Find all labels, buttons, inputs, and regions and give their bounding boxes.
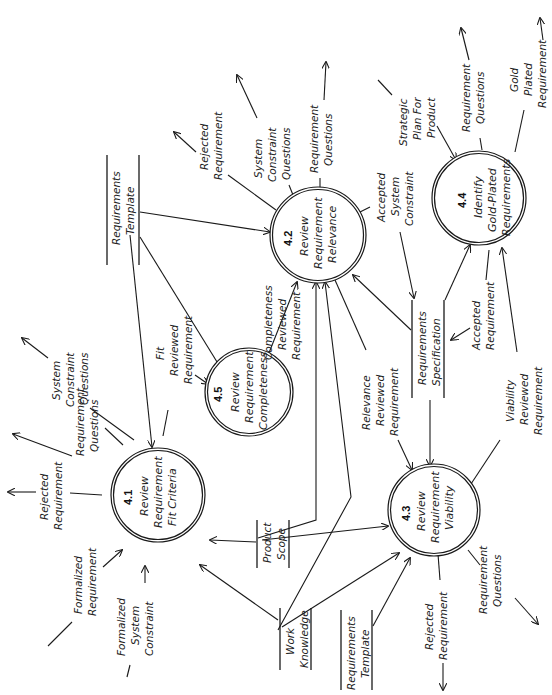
- svg-text:Scope: Scope: [275, 528, 287, 560]
- svg-text:Relevance: Relevance: [360, 375, 372, 430]
- svg-text:Fit: Fit: [154, 346, 166, 360]
- svg-text:Requirement: Requirement: [52, 461, 64, 530]
- svg-text:Viability: Viability: [504, 379, 516, 422]
- label-44-strategic-plan-for-product: Strategic Plan For Product: [397, 97, 437, 146]
- label-41-fit-reviewed-requirement: Fit Reviewed Requirement: [154, 315, 194, 384]
- label-43-requirement-questions: Requirement Questions: [477, 545, 503, 614]
- process-4-4[interactable]: 4.4 Identify Gold-Plated Requirements: [432, 151, 526, 245]
- svg-text:System: System: [50, 361, 62, 400]
- flow-spec-to-44: [445, 245, 470, 300]
- label-42-accepted-system-constraint: Accepted System Constraint: [375, 171, 415, 226]
- svg-text:Requirement: Requirement: [182, 315, 194, 384]
- flow-43-rejected-stub: [438, 554, 440, 580]
- flow-knowledge-to-42: [278, 282, 351, 630]
- svg-text:Requirement: Requirement: [477, 545, 489, 614]
- flow-42-req-questions-arrow: [324, 62, 326, 100]
- svg-text:Constraint: Constraint: [403, 171, 415, 226]
- flow-template-to-45: [140, 237, 222, 370]
- label-45-completeness-reviewed-requirement: Completeness Reviewed Requirement: [262, 285, 302, 360]
- svg-text:Template: Template: [124, 187, 136, 235]
- data-store-product-scope: Product Scope: [257, 520, 289, 568]
- svg-text:Identify: Identify: [472, 176, 485, 218]
- svg-text:Requirement: Requirement: [212, 111, 224, 180]
- svg-text:Plated: Plated: [522, 63, 534, 96]
- svg-text:Requirements: Requirements: [500, 159, 513, 236]
- svg-text:Requirement: Requirement: [460, 63, 472, 132]
- label-41-system-constraint-questions: System Constraint Questions: [50, 352, 90, 407]
- flow-template-to-42: [140, 212, 270, 232]
- process-4-2[interactable]: 4.2 Review Requirement Relevance: [270, 187, 366, 283]
- svg-text:Accepted: Accepted: [375, 173, 387, 223]
- flow-labels: Rejected Requirement Formalized Requirem…: [38, 39, 548, 660]
- svg-text:Review: Review: [138, 476, 151, 516]
- flow-41-formalized-req-tail: [48, 622, 72, 646]
- svg-text:Strategic: Strategic: [397, 98, 409, 146]
- flow-template-to-43: [373, 558, 410, 626]
- svg-text:Requirement: Requirement: [484, 281, 496, 350]
- svg-text:4.2: 4.2: [282, 231, 294, 246]
- svg-text:Requirement: Requirement: [388, 367, 400, 436]
- svg-text:Questions: Questions: [78, 352, 90, 405]
- svg-text:Completeness: Completeness: [262, 285, 274, 360]
- svg-text:Constraint: Constraint: [64, 352, 76, 407]
- flow-strategic-to-44: [437, 126, 456, 160]
- svg-text:Reviewed: Reviewed: [374, 375, 386, 426]
- flow-44-gold-stub: [515, 110, 524, 152]
- svg-text:Completeness: Completeness: [257, 352, 270, 430]
- flow-spec-to-42: [353, 275, 411, 330]
- flow-relevance-stub: [335, 280, 366, 350]
- svg-text:Questions: Questions: [491, 554, 503, 607]
- svg-text:Work: Work: [284, 627, 296, 655]
- svg-text:Requirement: Requirement: [532, 366, 544, 435]
- process-4-1[interactable]: 4.1 Review Requirement Fit Criteria: [111, 448, 205, 542]
- svg-text:Constraint: Constraint: [266, 127, 278, 182]
- flow-strategic-tail: [378, 80, 392, 95]
- svg-text:Requirement: Requirement: [290, 291, 302, 360]
- svg-text:Requirement: Requirement: [308, 104, 320, 173]
- svg-text:4.5: 4.5: [212, 387, 224, 402]
- svg-text:4.4: 4.4: [456, 192, 468, 208]
- svg-text:Questions: Questions: [280, 127, 292, 180]
- flow-accepted-to-spec: [400, 232, 414, 298]
- svg-text:Requirements: Requirements: [110, 171, 122, 245]
- svg-text:Formalized: Formalized: [115, 598, 127, 656]
- flow-44-accepted-stub: [486, 250, 489, 280]
- svg-text:Formalized: Formalized: [72, 556, 84, 614]
- svg-text:Product: Product: [425, 97, 437, 138]
- svg-text:Questions: Questions: [474, 71, 486, 124]
- flow-42-sys-questions-arrow: [237, 75, 257, 118]
- label-42-requirement-questions: Requirement Questions: [308, 104, 334, 173]
- process-4-5[interactable]: 4.5 Review Requirement Completeness: [205, 348, 293, 436]
- svg-text:Questions: Questions: [322, 113, 334, 166]
- svg-text:Product: Product: [261, 522, 273, 563]
- svg-text:Questions: Questions: [88, 399, 100, 452]
- flow-41-formalized-req-arrow: [103, 550, 122, 567]
- svg-text:Constraint: Constraint: [143, 601, 155, 656]
- data-store-requirements-specification: Requirements Specification: [412, 300, 444, 398]
- svg-text:Gold: Gold: [508, 68, 520, 92]
- svg-text:Requirement: Requirement: [429, 471, 442, 543]
- flow-41-rejected-stub: [70, 493, 102, 495]
- flow-41-sys-questions-arrow: [22, 338, 48, 358]
- svg-text:Reviewed: Reviewed: [168, 325, 180, 376]
- svg-text:Rejected: Rejected: [38, 474, 50, 520]
- flow-accepted-to-spec: [451, 328, 470, 340]
- process-4-3[interactable]: 4.3 Review Requirement Viability: [388, 464, 480, 556]
- label-41-rejected-requirement: Rejected Requirement: [38, 461, 64, 530]
- dfd-diagram: Requirements Template Product Scope Work…: [0, 0, 552, 695]
- flow-relevance-to-43: [398, 440, 412, 470]
- flow-42-sys-questions-stub: [289, 185, 293, 195]
- svg-text:Knowledge: Knowledge: [298, 610, 310, 668]
- svg-text:System: System: [252, 139, 264, 178]
- svg-text:Fit Criteria: Fit Criteria: [166, 468, 179, 526]
- svg-text:Review: Review: [229, 372, 242, 412]
- flow-44-req-questions-stub: [480, 138, 482, 150]
- flow-template-to-41: [130, 235, 152, 447]
- label-44-gold-plated-requirement: Gold Plated Requirement: [508, 39, 548, 108]
- label-41-formalized-system-constraint: Formalized System Constraint: [115, 598, 155, 656]
- flow-42-rejected-arrow: [174, 132, 196, 152]
- svg-text:Requirement: Requirement: [243, 351, 256, 423]
- label-43-rejected-requirement: Rejected Requirement: [423, 591, 449, 660]
- data-store-requirements-template-top: Requirements Template: [107, 155, 139, 265]
- svg-text:Template: Template: [359, 630, 371, 678]
